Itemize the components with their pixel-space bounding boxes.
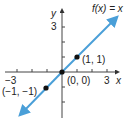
x-tick-label-neg3: −3 [5, 75, 17, 86]
y-axis-label: y [50, 8, 57, 19]
point-label-origin: (0, 0) [67, 75, 90, 86]
point-neg-one [43, 85, 48, 90]
y-tick-label-3: 3 [51, 21, 57, 32]
point-label-neg-one: (−1, −1) [2, 86, 37, 97]
function-graph: y 3 f(x) = x (1, 1) −3 (0, 0) 3 x (−1, −… [0, 0, 131, 119]
function-label: f(x) = x [92, 3, 124, 14]
x-tick-label-3: 3 [104, 75, 110, 86]
point-one [74, 54, 79, 59]
x-axis-label: x [115, 75, 122, 86]
point-label-one: (1, 1) [82, 54, 105, 65]
point-origin [59, 69, 64, 74]
